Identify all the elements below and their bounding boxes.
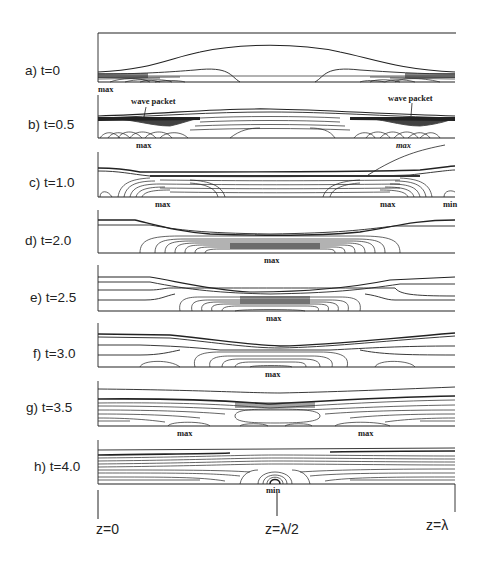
panel-f-plot bbox=[98, 323, 455, 367]
z-axis-label-0: z=0 bbox=[96, 521, 119, 537]
annotation-d-max: max bbox=[264, 255, 280, 265]
annotation-h-min: min bbox=[266, 485, 280, 495]
z-axis-ticks bbox=[98, 490, 277, 519]
annotation-c-max-right: max bbox=[380, 199, 396, 209]
annotation-e-max: max bbox=[266, 313, 282, 323]
z-axis-label-lambda: z=λ bbox=[426, 517, 448, 533]
annotation-b-wave-packet-left: wave packet bbox=[131, 96, 176, 106]
annotation-a-max: max bbox=[98, 84, 114, 94]
annotation-c-max-left: max bbox=[155, 199, 171, 209]
annotation-c-min: min bbox=[443, 199, 457, 209]
annotation-b-wave-packet-right: wave packet bbox=[388, 93, 433, 103]
annotation-b-max-right: max bbox=[396, 140, 411, 150]
annotation-g-max-left: max bbox=[177, 428, 193, 438]
panel-g-plot bbox=[98, 381, 455, 426]
panel-a-plot bbox=[98, 33, 456, 82]
panel-c-plot bbox=[98, 145, 455, 197]
contour-figure bbox=[0, 0, 491, 568]
panel-e-plot bbox=[98, 265, 455, 311]
z-axis-label-half-lambda: z=λ/2 bbox=[265, 521, 299, 537]
annotation-f-max: max bbox=[265, 369, 281, 379]
annotation-g-max-right: max bbox=[358, 428, 374, 438]
annotation-b-max-left: max bbox=[136, 140, 152, 150]
panel-d-plot bbox=[98, 210, 455, 253]
